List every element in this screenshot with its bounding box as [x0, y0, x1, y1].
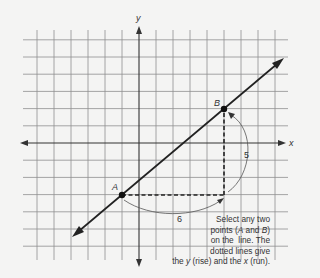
y-axis-label: y: [135, 13, 141, 23]
caption-line-1: Select any two: [110, 214, 270, 225]
point-b-label: B: [214, 98, 220, 108]
sloped-line: [72, 58, 284, 237]
x-axis-left-arrow-icon: [20, 140, 28, 146]
x-axis: x: [20, 138, 294, 148]
y-axis-up-arrow-icon: [136, 26, 142, 34]
caption-line-4: dotted lines give: [110, 246, 270, 257]
rise-curve-arrowhead-icon: [228, 112, 235, 119]
caption-line-5: the y (rise) and the x (run).: [110, 256, 270, 267]
x-axis-right-arrow-icon: [278, 140, 286, 146]
caption-line-2: points (A and B): [110, 225, 270, 236]
rise-label: 5: [244, 150, 249, 160]
point-a-label: A: [111, 182, 118, 192]
point-b: B: [214, 98, 227, 112]
point-a: A: [111, 182, 125, 198]
caption-line-3: on the line. The: [110, 235, 270, 246]
instruction-caption: Select any two points (A and B) on the l…: [110, 214, 270, 267]
x-axis-label: x: [288, 138, 294, 148]
run-curve-arrowhead-icon: [217, 198, 224, 204]
